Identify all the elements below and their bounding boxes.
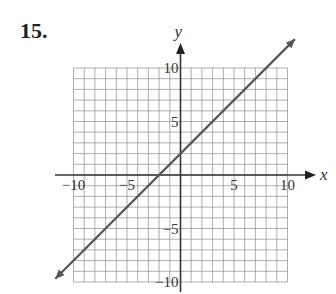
x-tick-label: 10 — [280, 177, 295, 193]
x-tick-label: −5 — [119, 177, 135, 193]
y-axis-label: y — [173, 22, 183, 41]
y-tick-label: −5 — [163, 221, 179, 237]
coordinate-plane: xy −10−5510105−5−10 — [0, 0, 336, 294]
y-axis-arrow-icon — [176, 43, 185, 54]
x-tick-label: 5 — [230, 177, 238, 193]
x-tick-label: −10 — [62, 177, 85, 193]
y-tick-label: 5 — [171, 114, 179, 130]
y-tick-label: −10 — [155, 274, 178, 290]
x-axis-arrow-icon — [305, 171, 316, 180]
x-axis-label: x — [319, 165, 328, 184]
y-tick-label: 10 — [164, 60, 179, 76]
